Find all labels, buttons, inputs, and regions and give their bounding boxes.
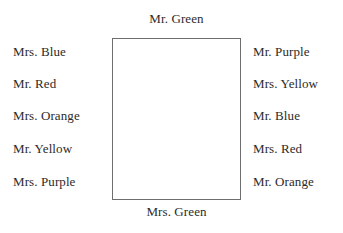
seat-label-left-2: Mr. Red <box>13 76 56 92</box>
seating-chart: Mr. Green Mrs. Blue Mr. Red Mrs. Orange … <box>0 0 343 233</box>
seat-label-right-1: Mr. Purple <box>253 44 310 60</box>
seat-label-left-5: Mrs. Purple <box>13 174 76 190</box>
seat-label-top-1: Mr. Green <box>112 11 241 27</box>
seat-label-right-3: Mr. Blue <box>253 108 300 124</box>
seat-label-left-1: Mrs. Blue <box>13 44 66 60</box>
seat-label-right-5: Mr. Orange <box>253 174 314 190</box>
seat-label-bottom-1: Mrs. Green <box>112 204 241 220</box>
seat-label-left-4: Mr. Yellow <box>13 141 72 157</box>
seat-label-right-4: Mrs. Red <box>253 141 302 157</box>
seat-label-left-3: Mrs. Orange <box>13 108 80 124</box>
seat-label-right-2: Mrs. Yellow <box>253 76 318 92</box>
table-rectangle <box>112 38 241 200</box>
